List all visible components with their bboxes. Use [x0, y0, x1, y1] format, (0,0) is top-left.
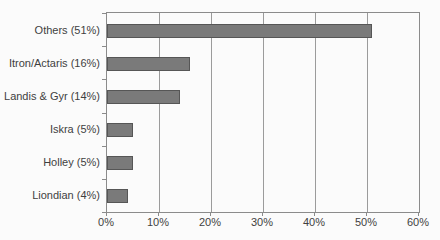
category-label: Others (51%): [0, 23, 100, 37]
y-axis-tick: [102, 79, 106, 80]
y-axis-tick: [102, 113, 106, 114]
y-axis-tick: [102, 13, 106, 14]
bar: [107, 24, 372, 38]
category-label: Iskra (5%): [0, 122, 100, 136]
bar: [107, 90, 180, 104]
category-label: Liondian (4%): [0, 188, 100, 202]
bar: [107, 57, 190, 71]
gridline: [315, 13, 316, 212]
x-axis-tick-label: 40%: [292, 216, 336, 228]
y-axis-tick: [102, 179, 106, 180]
gridline: [263, 13, 264, 212]
category-label: Holley (5%): [0, 155, 100, 169]
market-share-bar-chart: 0%10%20%30%40%50%60%Others (51%)Itron/Ac…: [0, 0, 440, 240]
bar: [107, 189, 128, 203]
x-axis-tick-label: 20%: [188, 216, 232, 228]
category-label: Itron/Actaris (16%): [0, 56, 100, 70]
gridline: [159, 13, 160, 212]
y-axis-tick: [102, 212, 106, 213]
x-axis-tick-label: 50%: [344, 216, 388, 228]
bar: [107, 156, 133, 170]
gridline: [211, 13, 212, 212]
x-axis-tick-label: 60%: [396, 216, 440, 228]
category-label: Landis & Gyr (14%): [0, 89, 100, 103]
y-axis-tick: [102, 146, 106, 147]
x-axis-tick-label: 0%: [84, 216, 128, 228]
x-axis-tick-label: 10%: [136, 216, 180, 228]
plot-area: [106, 12, 420, 213]
gridline: [367, 13, 368, 212]
x-axis-tick-label: 30%: [240, 216, 284, 228]
y-axis-tick: [102, 46, 106, 47]
bar: [107, 123, 133, 137]
